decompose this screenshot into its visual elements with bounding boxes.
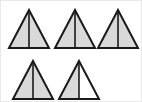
triangle-2-2 (59, 61, 99, 99)
triangle-1-1 (9, 10, 49, 48)
triangle-figure-canvas (1, 1, 142, 102)
triangle-1-3 (98, 10, 138, 48)
triangle-2-1 (13, 61, 53, 99)
triangle-fraction-figure (0, 0, 142, 102)
triangle-1-2 (55, 10, 95, 48)
